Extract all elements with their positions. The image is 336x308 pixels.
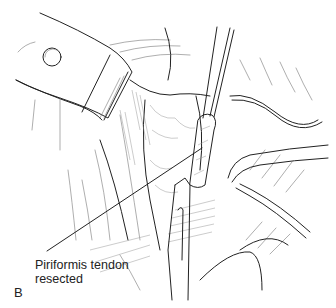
panel-label: B bbox=[14, 285, 23, 300]
annotation-line-2: resected bbox=[35, 272, 129, 286]
annotation-leader-line bbox=[47, 148, 202, 251]
right-retractor bbox=[228, 95, 328, 238]
forceps-instrument bbox=[168, 178, 190, 300]
tissue-lines bbox=[32, 28, 312, 254]
annotation-line-1: Piriformis tendon bbox=[35, 258, 129, 272]
muscle-mass bbox=[90, 80, 215, 272]
piriformis-tendon bbox=[190, 27, 234, 188]
retractor-blade bbox=[16, 13, 132, 120]
annotation-label: Piriformis tendon resected bbox=[35, 258, 129, 286]
